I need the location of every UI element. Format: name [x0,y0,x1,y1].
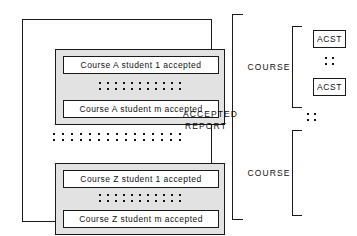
course-label-bottom: COURSE [246,167,292,179]
ellipsis-row [99,200,181,202]
record-box: Course Z student 1 accepted [63,170,219,188]
record-box: Course Z student m accepted [63,210,219,228]
course-bracket-bottom [292,130,302,216]
ellipsis-row [99,82,181,84]
ellipsis-row [99,88,181,90]
ellipsis-dots-group-z [99,194,181,202]
ellipsis-row [53,139,181,141]
record-text: Course A student 1 accepted [81,60,202,70]
accepted-report-label-line1: ACCEPTED [183,108,229,120]
ellipsis-dots-between-groups [53,133,181,141]
figure-canvas: Course A student 1 accepted Course A s [0,0,357,236]
ellipsis-row [307,113,316,115]
record-box: Course A student 1 accepted [63,56,219,74]
record-text: Course Z student m accepted [79,214,203,224]
ellipsis-row [53,133,181,135]
ellipsis-row [325,63,334,65]
ellipsis-row [325,57,334,59]
ellipsis-dots-course-column [307,113,316,121]
ellipsis-row [307,119,316,121]
accepted-report-label-line2: REPORT [183,120,229,132]
ellipsis-row [99,194,181,196]
course-label-top: COURSE [246,61,292,73]
ellipsis-dots-group-a [99,82,181,90]
course-bracket-top [292,26,302,108]
accepted-report-label: ACCEPTED REPORT [183,108,229,132]
acst-box: ACST [313,78,346,96]
acst-label: ACST [317,82,342,92]
course-group-z: Course Z student 1 accepted Course Z s [55,163,225,235]
acst-box: ACST [313,30,346,48]
record-text: Course Z student 1 accepted [80,174,201,184]
ellipsis-dots-acst-column [325,57,334,65]
acst-label: ACST [317,34,342,44]
